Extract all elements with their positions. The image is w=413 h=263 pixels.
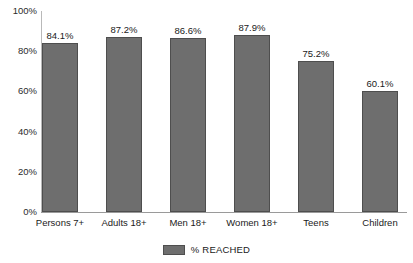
bar <box>362 91 398 212</box>
bar <box>106 37 142 212</box>
bar-value-label: 84.1% <box>30 30 90 41</box>
bar-chart: 0%20%40%60%80%100% 84.1%87.2%86.6%87.9%7… <box>0 0 413 263</box>
x-axis-line <box>41 212 407 213</box>
bar-column: 75.2% <box>298 11 334 212</box>
bar <box>42 43 78 212</box>
bar-value-label: 87.2% <box>94 24 154 35</box>
bar-value-label: 60.1% <box>350 78 410 89</box>
bar-value-label: 87.9% <box>222 22 282 33</box>
bar-column: 87.9% <box>234 11 270 212</box>
x-axis-category-label: Children <box>337 216 413 229</box>
bar <box>234 35 270 212</box>
legend-swatch-reached <box>163 245 185 255</box>
x-axis-category-labels: Persons 7+Adults 18+Men 18+Women 18+Teen… <box>0 216 413 232</box>
bar-column: 60.1% <box>362 11 398 212</box>
legend-label-reached: % REACHED <box>191 244 250 255</box>
bar <box>170 38 206 212</box>
chart-title-clipped <box>0 0 413 3</box>
bar-column: 84.1% <box>42 11 78 212</box>
bar-column: 86.6% <box>170 11 206 212</box>
bar-value-label: 86.6% <box>158 25 218 36</box>
bar <box>298 61 334 212</box>
bar-column: 87.2% <box>106 11 142 212</box>
bars-layer: 84.1%87.2%86.6%87.9%75.2%60.1% <box>0 11 413 212</box>
bar-value-label: 75.2% <box>286 48 346 59</box>
chart-legend: % REACHED <box>0 244 413 255</box>
